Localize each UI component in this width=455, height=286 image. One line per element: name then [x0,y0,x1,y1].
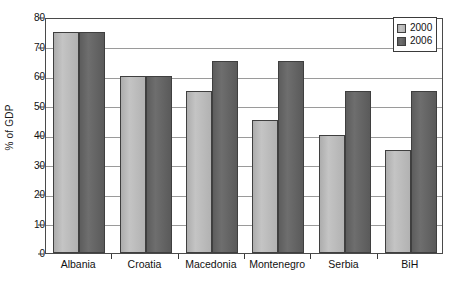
legend-item-2006[interactable]: 2006 [397,35,432,47]
bar-albania-2006 [79,32,105,253]
plot-area [45,18,443,254]
y-tick-mark [38,47,44,48]
y-tick-mark [38,224,44,225]
legend-item-2000[interactable]: 2000 [397,22,432,34]
y-tick-mark [38,195,44,196]
bar-bih-2006 [411,91,437,253]
x-tick-label-serbia: Serbia [328,258,358,270]
y-tick-mark [38,77,44,78]
x-tick-label-bih: BiH [401,258,418,270]
y-axis: 01020304050607080 [0,0,45,272]
gridline [46,137,442,138]
bar-serbia-2000 [319,135,345,253]
gridline [46,196,442,197]
y-tick-mark [38,254,44,255]
bar-bih-2000 [385,150,411,253]
bar-albania-2000 [53,32,79,253]
bar-serbia-2006 [345,91,371,253]
bar-montenegro-2000 [252,120,278,253]
bar-chart: % of GDP 01020304050607080 AlbaniaCroati… [0,0,455,286]
x-tick-label-montenegro: Montenegro [249,258,305,270]
chart-legend: 20002006 [393,17,437,52]
bar-croatia-2006 [146,76,172,253]
y-tick-mark [38,18,44,19]
x-tick-label-croatia: Croatia [128,258,162,270]
gridline [46,107,442,108]
x-tick-mark [111,254,112,259]
x-tick-mark [377,254,378,259]
gridline [46,78,442,79]
bar-macedonia-2006 [212,61,238,253]
y-tick-mark [38,165,44,166]
legend-label: 2006 [410,36,432,46]
gridline [46,48,442,49]
y-tick-mark [38,106,44,107]
legend-label: 2000 [410,23,432,33]
bar-montenegro-2006 [278,61,304,253]
x-tick-label-macedonia: Macedonia [185,258,236,270]
y-tick-mark [38,136,44,137]
gridline [46,166,442,167]
legend-swatch-icon [397,24,406,33]
x-tick-mark [178,254,179,259]
bar-croatia-2000 [120,76,146,253]
x-tick-mark [310,254,311,259]
bar-macedonia-2000 [186,91,212,253]
gridline [46,225,442,226]
x-tick-mark [244,254,245,259]
legend-swatch-icon [397,37,406,46]
x-tick-label-albania: Albania [61,258,96,270]
